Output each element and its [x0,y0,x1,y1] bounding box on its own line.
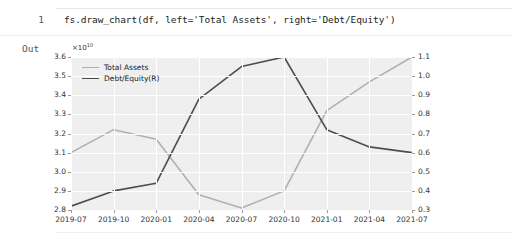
gridline-horizontal [71,57,412,58]
y-axis-left-tick-label: 2.9 [36,186,66,195]
y-axis-right-tick-label: 0.7 [418,129,448,138]
x-axis-tick [114,210,115,213]
divider-top [56,8,512,9]
y-axis-right-tick-label: 0.3 [418,205,448,214]
cell-execution-count: 1 [22,14,44,25]
y-axis-left-tick [68,191,71,192]
code-cell-row[interactable]: 1 fs.draw_chart(df, left='Total Assets',… [0,12,512,34]
y-axis-left-tick [68,134,71,135]
y-axis-left-tick-label: 3.4 [36,90,66,99]
matplotlib-figure: ×1010 3.63.53.43.33.23.13.02.92.81.11.00… [0,38,512,238]
y-axis-exponent-label: ×1010 [72,42,93,52]
x-axis-tick [71,210,72,213]
y-axis-left-tick [68,114,71,115]
y-axis-right-tick-label: 0.6 [418,148,448,157]
y-axis-right-tick-label: 1.0 [418,71,448,80]
chart-legend: Total Assets Debt/Equity(R) [78,60,163,86]
gridline-horizontal [71,114,412,115]
y-axis-left-tick [68,172,71,173]
x-axis-tick [199,210,200,213]
gridline-horizontal [71,134,412,135]
y-axis-right-tick-label: 0.9 [418,90,448,99]
y-axis-right-tick [412,153,415,154]
code-source-text[interactable]: fs.draw_chart(df, left='Total Assets', r… [64,14,396,25]
x-axis-tick [369,210,370,213]
x-axis-tick-label: 2021-07 [386,215,438,224]
y-axis-right-tick-label: 0.5 [418,167,448,176]
y-axis-left-tick [68,57,71,58]
legend-swatch-total-assets [82,67,99,68]
y-axis-left-tick-label: 2.8 [36,205,66,214]
gridline-horizontal [71,172,412,173]
y-axis-left-tick [68,153,71,154]
legend-item-debt-equity: Debt/Equity(R) [82,73,159,84]
y-axis-left-tick-label: 3.2 [36,129,66,138]
y-axis-left-tick [68,95,71,96]
x-axis-tick [156,210,157,213]
y-axis-left-tick-label: 3.6 [36,52,66,61]
y-axis-left-tick-label: 3.5 [36,71,66,80]
x-axis-tick [327,210,328,213]
legend-label-total-assets: Total Assets [104,63,148,72]
y-axis-right-tick-label: 1.1 [418,52,448,61]
y-axis-left-tick [68,76,71,77]
y-axis-left-tick-label: 3.1 [36,148,66,157]
x-axis-tick [284,210,285,213]
y-axis-left-tick-label: 3.3 [36,109,66,118]
y-axis-right-tick-label: 0.8 [418,109,448,118]
exponent-power: 10 [87,42,93,48]
x-axis-tick [412,210,413,213]
y-axis-right-tick [412,172,415,173]
legend-item-total-assets: Total Assets [82,62,159,73]
y-axis-right-tick [412,114,415,115]
divider-middle [0,35,512,36]
y-axis-left-tick-label: 3.0 [36,167,66,176]
y-axis-right-tick [412,191,415,192]
exponent-mantissa: ×10 [72,44,87,52]
y-axis-right-tick [412,57,415,58]
y-axis-right-tick [412,76,415,77]
notebook-output-cell: 1 fs.draw_chart(df, left='Total Assets',… [0,0,512,245]
y-axis-right-tick [412,95,415,96]
y-axis-right-tick [412,134,415,135]
legend-label-debt-equity: Debt/Equity(R) [104,74,159,83]
legend-swatch-debt-equity [82,78,99,79]
x-axis-tick [242,210,243,213]
gridline-horizontal [71,95,412,96]
gridline-horizontal [71,191,412,192]
gridline-horizontal [71,153,412,154]
y-axis-right-tick-label: 0.4 [418,186,448,195]
